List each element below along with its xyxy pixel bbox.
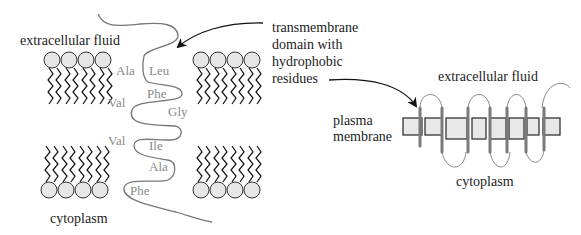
residue-label: Leu: [149, 63, 170, 78]
residue-label: Phe: [130, 183, 150, 198]
residue-labels: Ala Leu Phe Val Gly Val Ile Ala Phe: [108, 63, 188, 198]
extracellular-fluid-label-left: extracellular fluid: [20, 33, 120, 48]
lipid-bilayer-right: [193, 52, 261, 198]
residue-label: Gly: [168, 104, 188, 119]
left-panel: extracellular fluid cytoplasm: [20, 14, 261, 226]
residue-label: Val: [108, 95, 126, 110]
right-panel: extracellular fluid plasma membrane cyto…: [333, 69, 570, 189]
callout-line-3: hydrophobic: [272, 54, 343, 69]
lipid-bilayer-left: [41, 52, 112, 198]
callout-arrow-right: [329, 79, 416, 106]
callout-line-2: domain with: [272, 37, 342, 52]
membrane-protein-diagram: extracellular fluid cytoplasm: [0, 0, 581, 235]
extracellular-fluid-label-right: extracellular fluid: [438, 69, 538, 84]
plasma-membrane-label-line-1: plasma: [333, 113, 373, 128]
callout-arrow-left: [178, 23, 263, 47]
callout-line-4: residues: [272, 71, 318, 86]
residue-label: Val: [108, 133, 126, 148]
membrane-boxes: [403, 118, 560, 139]
cytoplasm-label-right: cytoplasm: [456, 174, 514, 189]
residue-label: Phe: [147, 86, 167, 101]
plasma-membrane-label-line-2: membrane: [333, 129, 392, 144]
residue-label: Ile: [149, 138, 163, 153]
cytoplasm-label-left: cytoplasm: [50, 211, 108, 226]
residue-label: Ala: [149, 159, 168, 174]
residue-label: Ala: [116, 63, 135, 78]
callout-line-1: transmembrane: [272, 20, 358, 35]
